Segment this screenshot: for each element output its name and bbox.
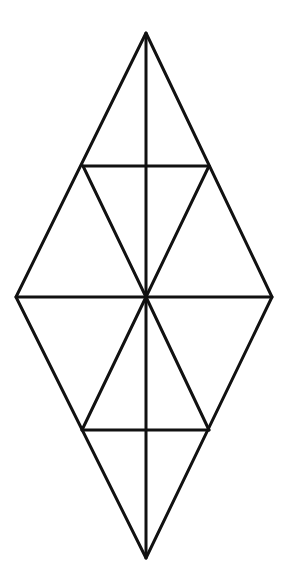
diagram-lines bbox=[16, 33, 272, 558]
upper-right-diagonal bbox=[146, 166, 209, 297]
lower-left-diagonal bbox=[82, 297, 146, 430]
upper-left-diagonal bbox=[83, 166, 146, 297]
lower-right-diagonal bbox=[146, 297, 209, 430]
rhombus-diagram bbox=[0, 0, 297, 585]
